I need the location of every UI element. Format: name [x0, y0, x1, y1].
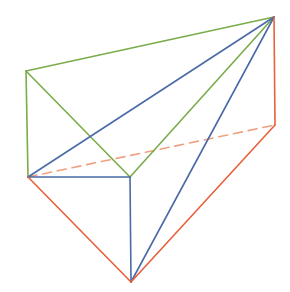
edge-CE: [28, 177, 131, 282]
edges-group: [26, 17, 275, 282]
edge-BD: [26, 71, 130, 177]
edge-BC: [26, 71, 28, 177]
edge-CF: [28, 125, 275, 177]
edge-AF: [274, 17, 275, 125]
edge-DE: [130, 177, 131, 282]
edge-AB: [26, 17, 274, 71]
polyhedron-diagram: [0, 0, 290, 292]
